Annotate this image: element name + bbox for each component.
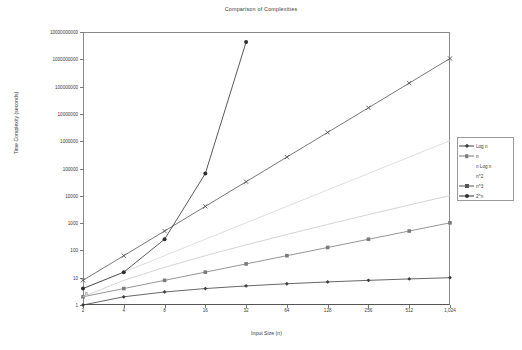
data-point [122, 295, 126, 299]
data-point [244, 180, 248, 184]
data-point [326, 246, 330, 250]
data-point [244, 262, 248, 266]
data-point [81, 278, 85, 282]
series-n-log-n [83, 196, 450, 297]
data-point [122, 254, 126, 258]
legend-swatch-icon [458, 142, 475, 150]
legend-swatch-icon [458, 182, 475, 190]
data-point [203, 172, 207, 176]
legend-label: n Log n [475, 164, 491, 169]
legend-swatch-icon [458, 192, 475, 200]
legend-label: n [475, 154, 479, 159]
series-log-n [81, 276, 452, 307]
series-annotation-n: n [85, 291, 88, 296]
data-point [122, 270, 126, 274]
legend-label: Log n [475, 144, 488, 149]
data-point [122, 287, 126, 291]
data-point [163, 290, 167, 294]
data-point [367, 278, 371, 282]
legend-item-2-n[interactable]: 2^n [458, 191, 513, 201]
data-point [163, 279, 167, 283]
legend-item-n-2[interactable]: n^2 [458, 171, 513, 181]
data-point [244, 284, 248, 288]
data-point [244, 40, 248, 44]
legend-label: 2^n [475, 194, 483, 199]
series-layer [0, 0, 522, 350]
data-point [203, 204, 207, 208]
data-point [285, 254, 289, 258]
series-n-3 [81, 56, 452, 282]
legend-label: n^2 [475, 174, 483, 179]
legend-item-log-n[interactable]: Log n [458, 141, 513, 151]
data-point [162, 229, 166, 233]
data-point [448, 221, 452, 225]
series-n-2 [83, 141, 450, 289]
data-point [407, 277, 411, 281]
chart-legend: Log nnn Log nn^2n^32^n [457, 137, 514, 201]
data-point [366, 106, 370, 110]
legend-swatch-icon [458, 162, 475, 170]
data-point [448, 276, 452, 280]
legend-swatch-icon [458, 172, 475, 180]
data-point [81, 303, 85, 307]
data-point [163, 237, 167, 241]
complexity-chart: Comparison of Complexities Time Complexi… [0, 0, 522, 350]
data-point [407, 81, 411, 85]
series-2-n [81, 40, 248, 291]
data-point [326, 130, 330, 134]
legend-item-n-3[interactable]: n^3 [458, 181, 513, 191]
data-point [204, 270, 208, 274]
data-point [326, 280, 330, 284]
data-point [203, 287, 207, 291]
legend-swatch-icon [458, 152, 475, 160]
data-point [285, 282, 289, 286]
legend-item-n-log-n[interactable]: n Log n [458, 161, 513, 171]
legend-item-n[interactable]: n [458, 151, 513, 161]
data-point [285, 155, 289, 159]
data-point [367, 237, 371, 241]
data-point [448, 56, 452, 60]
x-axis-title: Input Size (n) [83, 330, 450, 336]
data-point [407, 229, 411, 233]
legend-label: n^3 [475, 184, 483, 189]
series-n [81, 221, 452, 299]
